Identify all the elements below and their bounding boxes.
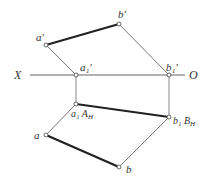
- point-b1: [167, 115, 171, 119]
- line-b-b1: [119, 117, 169, 167]
- segment-aprime-bprime: [46, 24, 119, 45]
- point-a: [44, 133, 48, 137]
- label-a1-prime: a₁′: [80, 61, 92, 73]
- axis-label-x: X: [13, 68, 22, 82]
- label-b1-prime: b₁′: [166, 61, 178, 73]
- line-aprime-a1prime: [46, 45, 76, 75]
- point-a-prime: [44, 43, 48, 47]
- point-b: [117, 165, 121, 169]
- point-a1: [74, 102, 78, 106]
- label-a-prime: a′: [36, 31, 45, 43]
- point-b-prime: [117, 22, 121, 26]
- label-a: a: [34, 129, 40, 141]
- projection-diagram: X O a′ b′ a₁′ b₁′ a₁ AH b₁ BH a b: [0, 0, 210, 183]
- point-a1-prime: [74, 73, 78, 77]
- line-bprime-b1prime: [119, 24, 169, 75]
- axis-label-o: O: [189, 68, 198, 82]
- label-b-prime: b′: [118, 8, 127, 20]
- segment-a-b: [46, 135, 119, 167]
- label-a1-AH: a₁ AH: [71, 108, 94, 121]
- point-b1-prime: [167, 73, 171, 77]
- label-b1-BH: b₁ BH: [173, 115, 196, 128]
- label-b: b: [126, 163, 132, 175]
